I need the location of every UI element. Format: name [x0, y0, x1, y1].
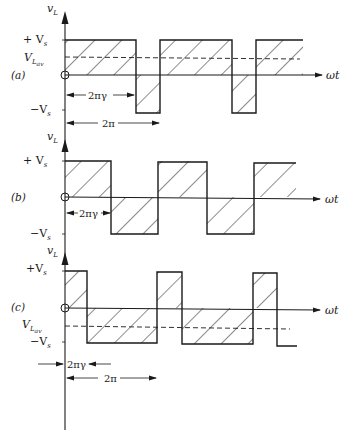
hatch-positive-c1 — [65, 271, 87, 308]
panel-label-b: (b) — [11, 191, 26, 203]
dim-label-2pigamma-a: 2πγ — [88, 90, 107, 101]
hatch-negative-c2 — [182, 308, 253, 344]
x-label-b: ωt — [325, 193, 339, 206]
panel-b: vL + Vs (b) −Vs ωt 2πγ — [11, 130, 339, 242]
y-axis-arrow-a — [62, 11, 69, 24]
panel-label-a: (a) — [11, 69, 25, 81]
waveform-diagram: vL + Vs VLav (a) −Vs ωt 2πγ 2π vL + Vs (… — [0, 0, 347, 436]
x-label-c: ωt — [325, 304, 339, 317]
label-minus-vs-a: −Vs — [30, 103, 51, 118]
dim-label-2pi-a: 2π — [102, 118, 115, 129]
y-label-a: vL — [47, 2, 58, 17]
y-label-b: vL — [47, 130, 58, 145]
y-label-c: vL — [47, 244, 58, 259]
hatch-negative-a1 — [136, 75, 160, 113]
panel-label-c: (c) — [11, 301, 25, 313]
hatch-positive-b2 — [158, 161, 207, 197]
label-plus-vs-b: + Vs — [23, 154, 48, 169]
label-plus-vs-c: +Vs — [26, 262, 47, 277]
panel-a: vL + Vs VLav (a) −Vs ωt 2πγ 2π — [11, 2, 340, 129]
hatch-positive-b3 — [254, 163, 296, 197]
label-vlav-c: VLav — [22, 318, 42, 334]
label-vlav-a: VLav — [24, 51, 44, 67]
label-plus-vs-a: + Vs — [23, 33, 48, 48]
dim-label-2pigamma-c: 2πγ — [67, 359, 86, 370]
dim-label-2pigamma-b: 2πγ — [79, 208, 98, 219]
panel-c: vL +Vs (c) VLav −Vs ωt 2πγ 2π — [11, 244, 339, 384]
hatch-positive-c2 — [157, 272, 182, 308]
label-minus-vs-c: −Vs — [30, 335, 51, 350]
x-axis-b — [65, 197, 320, 199]
hatch-negative-b1 — [111, 197, 158, 234]
hatch-negative-a2 — [232, 75, 256, 113]
hatch-positive-c3 — [253, 273, 277, 308]
dim-label-2pi-c: 2π — [104, 373, 117, 384]
y-axis-arrow-b — [62, 139, 69, 152]
figure: vL + Vs VLav (a) −Vs ωt 2πγ 2π vL + Vs (… — [0, 0, 347, 436]
hatch-positive-a3 — [256, 40, 303, 75]
hatch-negative-b2 — [207, 197, 254, 234]
hatch-negative-c1 — [87, 308, 157, 343]
label-minus-vs-b: −Vs — [30, 227, 51, 242]
x-label-a: ωt — [326, 69, 340, 82]
y-axis-arrow-c — [62, 252, 69, 265]
hatch-positive-b1 — [65, 161, 111, 197]
